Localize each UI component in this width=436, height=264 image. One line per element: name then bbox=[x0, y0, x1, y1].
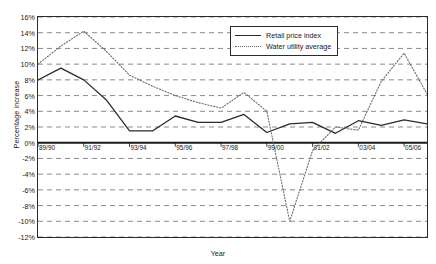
y-axis-tick-label: 6% bbox=[25, 91, 35, 100]
x-axis-tick-label: 93/94 bbox=[131, 144, 147, 151]
y-axis-tick-label: 4% bbox=[25, 107, 35, 116]
y-axis-tick-label: 14% bbox=[21, 28, 35, 37]
y-axis-tick-label: 10% bbox=[21, 60, 35, 69]
legend-label: Water utility average bbox=[266, 41, 331, 52]
x-axis-tick-label: 89/90 bbox=[39, 144, 55, 151]
x-axis-tick-label: 97/98 bbox=[222, 144, 238, 151]
x-axis-tick-label: 91/92 bbox=[85, 144, 101, 151]
x-axis-tick-label: 99/00 bbox=[268, 144, 284, 151]
legend-item-retail-price-index: Retail price index bbox=[235, 30, 331, 41]
y-axis-tick-label: -10% bbox=[18, 217, 35, 226]
y-axis-tick-label: -8% bbox=[22, 201, 35, 210]
y-axis-title: Percentage increase bbox=[12, 50, 21, 180]
chart-figure: Percentage increase Year 16%14%12%10%8%6… bbox=[0, 0, 436, 264]
y-axis-tick-label: -4% bbox=[22, 170, 35, 179]
y-axis-tick-label: 2% bbox=[25, 123, 35, 132]
legend-item-water-utility-average: Water utility average bbox=[235, 41, 331, 52]
x-axis-tick-label: 95/96 bbox=[176, 144, 192, 151]
legend-swatch-dotted-line-icon bbox=[235, 42, 261, 51]
legend-swatch-solid-line-icon bbox=[235, 31, 261, 40]
y-axis-tick-label: 8% bbox=[25, 75, 35, 84]
y-axis-tick-label: -6% bbox=[22, 185, 35, 194]
series-line-water-utility-average bbox=[38, 31, 427, 221]
y-axis-tick-label: -2% bbox=[22, 154, 35, 163]
x-axis-tick-label: 03/04 bbox=[359, 144, 375, 151]
y-axis-tick-label: 16% bbox=[21, 13, 35, 22]
y-axis-tick-label: -12% bbox=[18, 233, 35, 242]
x-axis-title: Year bbox=[0, 249, 436, 258]
y-axis-tick-label: 0% bbox=[25, 138, 35, 147]
x-axis-tick-label: 01/02 bbox=[314, 144, 330, 151]
y-axis-tick-label: 12% bbox=[21, 44, 35, 53]
legend-label: Retail price index bbox=[266, 30, 321, 41]
x-axis-tick-label: 05/06 bbox=[405, 144, 421, 151]
chart-legend: Retail price index Water utility average bbox=[230, 26, 338, 56]
